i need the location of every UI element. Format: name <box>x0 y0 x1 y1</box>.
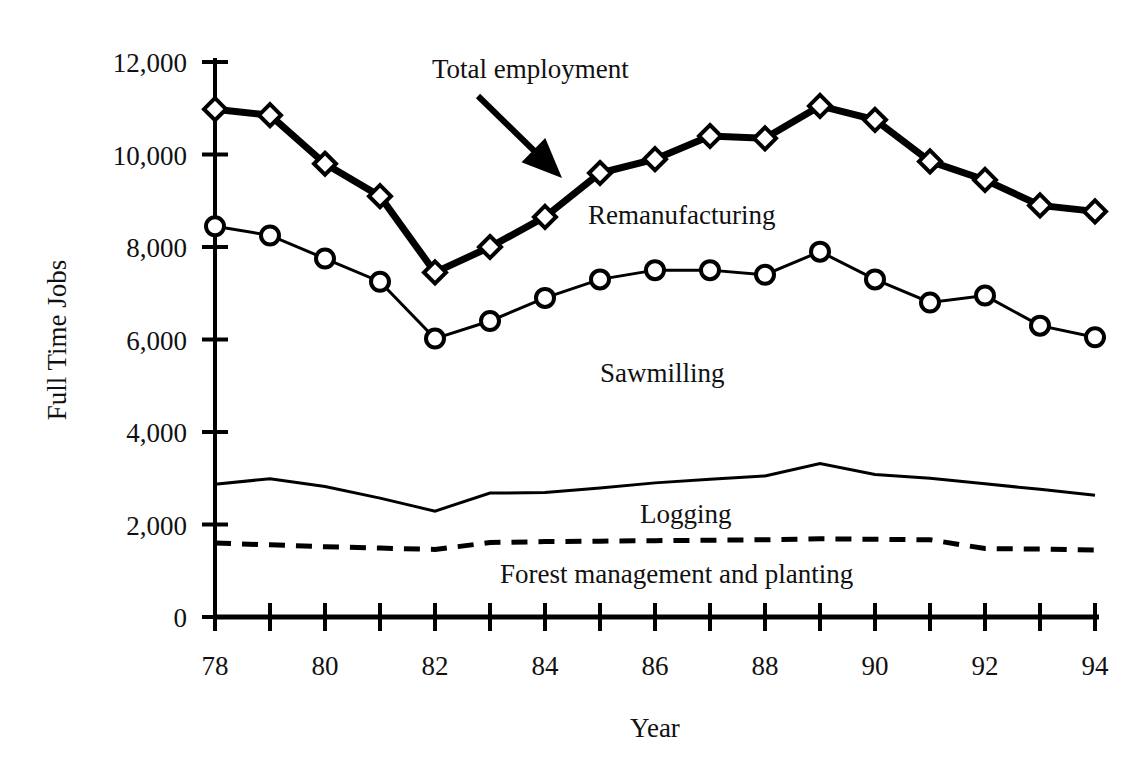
data-point-marker <box>591 270 609 288</box>
y-axis-tick-label: 12,000 <box>113 48 187 78</box>
chart-background <box>0 0 1139 784</box>
series-label-total-employment: Total employment <box>432 54 629 84</box>
employment-line-chart: 02,0004,0006,0008,00010,00012,000 788082… <box>0 0 1139 784</box>
x-axis-tick-label: 88 <box>752 651 779 681</box>
series-label-forest-management-and-planting: Forest management and planting <box>500 559 853 589</box>
chart-canvas: 02,0004,0006,0008,00010,00012,000 788082… <box>0 0 1139 784</box>
x-axis-tick-label: 94 <box>1082 651 1110 681</box>
data-point-marker <box>481 312 499 330</box>
series-label-sawmilling: Sawmilling <box>600 358 725 388</box>
y-axis-tick-label: 8,000 <box>126 233 187 263</box>
data-point-marker <box>866 270 884 288</box>
x-axis-tick-label: 90 <box>862 651 889 681</box>
data-point-marker <box>701 261 719 279</box>
y-axis-tick-label: 10,000 <box>113 141 187 171</box>
x-axis-tick-label: 86 <box>642 651 669 681</box>
data-point-marker <box>1086 328 1104 346</box>
y-axis-title: Full Time Jobs <box>42 260 72 421</box>
data-point-marker <box>316 250 334 268</box>
x-axis-tick-label: 92 <box>972 651 999 681</box>
y-axis-tick-label: 2,000 <box>126 511 187 541</box>
series-label-remanufacturing: Remanufacturing <box>588 200 775 230</box>
series-label-logging: Logging <box>640 499 732 529</box>
x-axis-tick-label: 82 <box>422 651 449 681</box>
x-axis-tick-label: 84 <box>532 651 560 681</box>
data-point-marker <box>646 261 664 279</box>
data-point-marker <box>921 294 939 312</box>
data-point-marker <box>976 287 994 305</box>
x-axis-tick-label: 80 <box>312 651 339 681</box>
data-point-marker <box>206 217 224 235</box>
y-axis-tick-label: 6,000 <box>126 326 187 356</box>
y-axis-tick-label: 0 <box>174 603 188 633</box>
x-axis-tick-label: 78 <box>202 651 229 681</box>
data-point-marker <box>371 273 389 291</box>
data-point-marker <box>756 266 774 284</box>
data-point-marker <box>536 289 554 307</box>
y-axis-tick-label: 4,000 <box>126 418 187 448</box>
data-point-marker <box>426 330 444 348</box>
data-point-marker <box>1031 317 1049 335</box>
data-point-marker <box>811 243 829 261</box>
x-axis-title: Year <box>630 713 680 743</box>
data-point-marker <box>261 226 279 244</box>
